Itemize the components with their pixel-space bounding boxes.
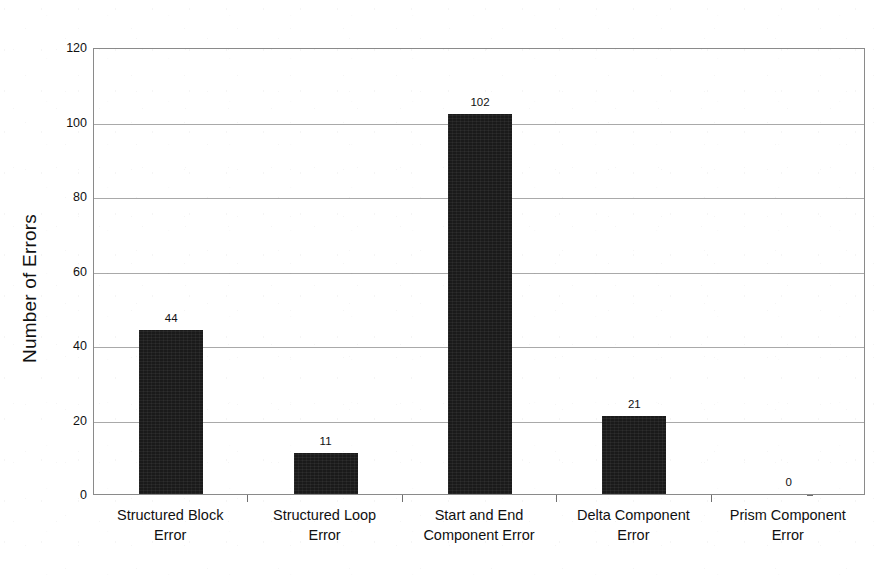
y-axis-tick-label: 0 (41, 488, 87, 502)
x-axis-tick-mark (556, 495, 557, 502)
x-axis-label-line: Error (556, 526, 710, 546)
chart-screenshot: Number of Errors 020406080100120 4411102… (0, 0, 890, 577)
x-axis-category-label: Structured LoopError (247, 506, 401, 545)
x-axis-category-labels: Structured BlockErrorStructured LoopErro… (93, 506, 865, 566)
y-axis-tick-label: 60 (41, 265, 87, 279)
bar-group[interactable]: 44 (94, 49, 248, 494)
x-axis-label-line: Start and End (402, 506, 556, 526)
bar-group[interactable]: 0 (712, 49, 866, 494)
x-axis-label-line: Structured Block (93, 506, 247, 526)
bar[interactable] (294, 453, 358, 494)
plot-area: 4411102210 (93, 48, 865, 495)
x-axis-category-label: Structured BlockError (93, 506, 247, 545)
y-axis-tick-label: 80 (41, 190, 87, 204)
bar-value-label: 102 (470, 96, 489, 108)
x-axis-label-line: Delta Component (556, 506, 710, 526)
bar-group[interactable]: 102 (403, 49, 557, 494)
y-axis-tick-label: 20 (41, 414, 87, 428)
x-axis-label-line: Component Error (402, 526, 556, 546)
bar-group[interactable]: 11 (248, 49, 402, 494)
bars-layer: 4411102210 (94, 49, 864, 494)
x-axis-label-line: Error (93, 526, 247, 546)
bar[interactable] (602, 416, 666, 494)
bar[interactable] (139, 330, 203, 494)
y-axis-tick-label: 100 (41, 116, 87, 130)
bar-value-label: 11 (320, 435, 332, 447)
x-axis-label-line: Error (711, 526, 865, 546)
y-axis-tick-label: 120 (41, 41, 87, 55)
bar[interactable] (448, 114, 512, 494)
bar-value-label: 44 (165, 312, 178, 324)
bar-value-label: 0 (786, 476, 792, 488)
bar-value-label: 21 (628, 398, 641, 410)
y-axis-tick-label: 40 (41, 339, 87, 353)
bar-group[interactable]: 21 (557, 49, 711, 494)
x-axis-tick-mark (711, 495, 712, 502)
x-axis-label-line: Error (247, 526, 401, 546)
x-axis-tick-mark (247, 495, 248, 502)
x-axis-label-line: Structured Loop (247, 506, 401, 526)
y-axis-tick-labels: 020406080100120 (35, 48, 87, 495)
x-axis-category-label: Delta ComponentError (556, 506, 710, 545)
x-axis-label-line: Prism Component (711, 506, 865, 526)
x-axis-category-label: Start and EndComponent Error (402, 506, 556, 545)
x-axis-category-label: Prism ComponentError (711, 506, 865, 545)
x-axis-tick-mark (402, 495, 403, 502)
y-axis-tick-mark (807, 495, 813, 496)
